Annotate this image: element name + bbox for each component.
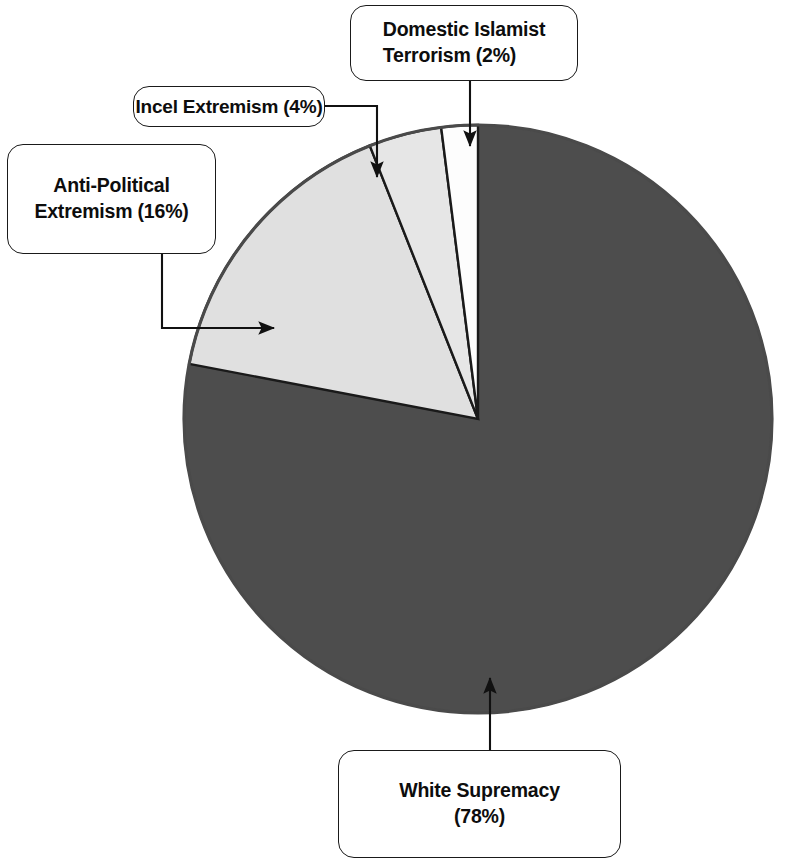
callout-incel-extremism-label: Incel Extremism (4%) [135, 94, 322, 119]
callout-white-supremacy: White Supremacy (78%) [338, 750, 621, 858]
callout-domestic-islamist-terrorism-label: Domestic Islamist Terrorism (2%) [383, 17, 545, 68]
callout-incel-extremism: Incel Extremism (4%) [133, 86, 325, 127]
pie-chart-graphic [0, 0, 801, 859]
callout-anti-political-extremism-label: Anti-Political Extremism (16%) [34, 173, 188, 224]
callout-anti-political-extremism: Anti-Political Extremism (16%) [7, 144, 216, 254]
callout-domestic-islamist-terrorism: Domestic Islamist Terrorism (2%) [350, 5, 578, 81]
callout-white-supremacy-label: White Supremacy (78%) [399, 778, 560, 829]
pie-chart-figure: Domestic Islamist Terrorism (2%) Incel E… [0, 0, 801, 859]
